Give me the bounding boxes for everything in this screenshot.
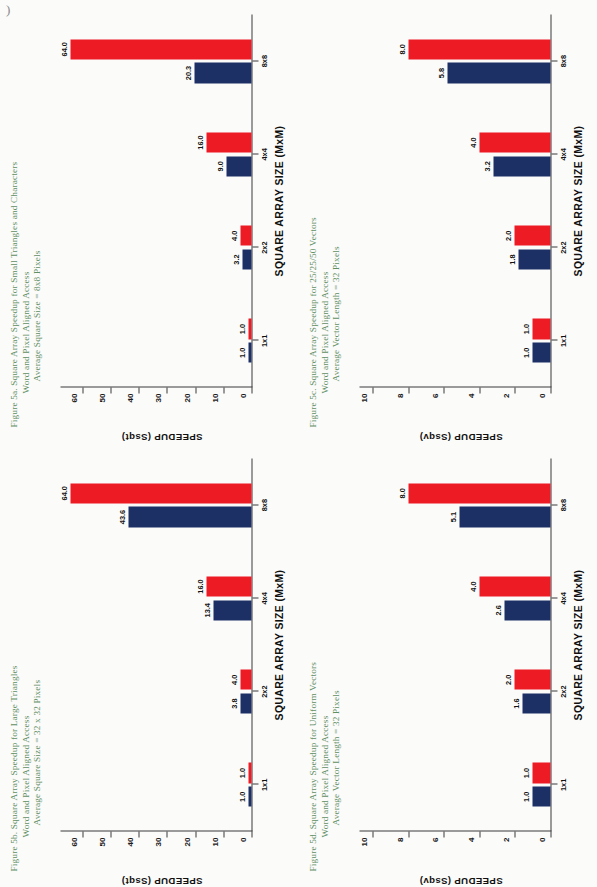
y-axis-tick (251, 831, 252, 837)
bar-value-label: 1.8 (507, 254, 516, 264)
bar-value-label: 13.4 (202, 603, 211, 617)
figure-panel-5c: Figure 5c. Square Array Speedup for 25/2… (299, 0, 597, 443)
bar-pixel-aligned (70, 39, 251, 59)
y-axis-tick-label: 4 (466, 837, 475, 861)
y-axis-tick (408, 831, 409, 837)
x-axis-group-label: 4x4 (558, 148, 567, 160)
x-axis-group-label: 2x2 (259, 685, 268, 697)
x-axis-tick (252, 246, 258, 247)
y-axis-tick (195, 831, 196, 837)
bar-pixel-aligned (70, 483, 251, 503)
bar-word-aligned (240, 693, 251, 713)
y-axis-tick (479, 831, 480, 837)
bar-pixel-aligned (240, 669, 251, 689)
y-axis (359, 386, 551, 387)
bar-word-aligned (447, 63, 550, 83)
x-axis-group-label: 4x4 (259, 148, 268, 160)
y-axis-tick (550, 831, 551, 837)
y-axis-tick-label: 4 (466, 393, 475, 417)
bar-value-label: 8.0 (397, 488, 406, 498)
x-axis-tick (252, 783, 258, 784)
bar-word-aligned (242, 249, 251, 269)
figure-caption-line-2: Word and Pixel Aligned Access (20, 127, 32, 427)
y-axis-tick-label: 0 (238, 837, 247, 861)
y-axis-title: SPEEDUP (Ssqv) (381, 876, 541, 887)
x-axis-title: SQUARE ARRAY SIZE (MxM) (572, 458, 583, 831)
y-axis-tick-label: 8 (395, 837, 404, 861)
bar-word-aligned (493, 156, 550, 176)
y-axis-tick (166, 831, 167, 837)
bar-word-aligned (248, 786, 251, 806)
bar-pixel-aligned (408, 39, 550, 59)
y-axis-tick-label: 2 (501, 837, 510, 861)
x-axis-group-label: 8x8 (558, 54, 567, 66)
y-axis-tick (223, 831, 224, 837)
x-axis-title: SQUARE ARRAY SIZE (MxM) (273, 458, 284, 831)
y-axis-tick-label: 10 (210, 393, 219, 417)
y-axis-tick (443, 387, 444, 393)
plot-area: 0246810SPEEDUP (Ssqv)SQUARE ARRAY SIZE (… (359, 458, 551, 831)
bar-pixel-aligned (206, 132, 251, 152)
x-axis-group-label: 2x2 (259, 241, 268, 253)
bar-value-label: 1.0 (521, 347, 530, 357)
bar-pixel-aligned (479, 576, 550, 596)
x-axis-tick (252, 690, 258, 691)
y-axis-tick-label: 2 (501, 393, 510, 417)
figure-caption-line-2: Word and Pixel Aligned Access (319, 571, 331, 871)
x-axis-title: SQUARE ARRAY SIZE (MxM) (273, 14, 284, 387)
x-axis-group-label: 1x1 (259, 334, 268, 346)
bar-value-label: 1.0 (521, 323, 530, 333)
figure-caption-line-3: Average Vector Length = 32 Pixels (330, 127, 342, 427)
y-axis-tick-label: 6 (430, 837, 439, 861)
figure-caption-line-3: Average Square Size = 32 x 32 Pixels (31, 571, 43, 871)
figure-caption: Figure 5d. Square Array Speedup for Unif… (307, 571, 342, 871)
chart-figure-5a: Figure 5a. Square Array Speedup for Smal… (0, 0, 298, 443)
plot-area: 0102030405060SPEEDUP (Ssqt)SQUARE ARRAY … (60, 458, 252, 831)
x-axis-title: SQUARE ARRAY SIZE (MxM) (572, 14, 583, 387)
x-axis-tick (551, 504, 557, 505)
figure-caption-line-1: Figure 5a. Square Array Speedup for Smal… (8, 161, 18, 427)
figure-caption-line-1: Figure 5d. Square Array Speedup for Unif… (307, 661, 317, 871)
x-axis-group-label: 4x4 (259, 592, 268, 604)
figure-caption: Figure 5c. Square Array Speedup for 25/2… (307, 127, 342, 427)
bar-pixel-aligned (514, 225, 550, 245)
x-axis-tick (551, 153, 557, 154)
bar-value-label: 4.0 (229, 674, 238, 684)
y-axis-tick-label: 60 (69, 393, 78, 417)
figure-caption-line-1: Figure 5c. Square Array Speedup for 25/2… (307, 217, 317, 427)
x-axis-tick (252, 597, 258, 598)
y-axis-tick-label: 20 (182, 837, 191, 861)
y-axis-tick (166, 387, 167, 393)
bar-value-label: 5.8 (436, 67, 445, 77)
bar-value-label: 16.0 (195, 135, 204, 149)
bar-value-label: 1.0 (237, 323, 246, 333)
x-axis-tick (252, 60, 258, 61)
y-axis-tick (138, 387, 139, 393)
y-axis-tick-label: 60 (69, 837, 78, 861)
y-axis-tick-label: 10 (210, 837, 219, 861)
figure-caption-line-2: Word and Pixel Aligned Access (319, 127, 331, 427)
chart-figure-5b: Figure 5b. Square Array Speedup for Larg… (0, 444, 298, 887)
y-axis-tick (372, 387, 373, 393)
x-axis-group-label: 2x2 (558, 685, 567, 697)
y-axis-tick (408, 387, 409, 393)
scanned-page: ) Figure 5a. Square Array Speedup for Sm… (0, 0, 597, 887)
bar-pixel-aligned (514, 669, 550, 689)
bar-pixel-aligned (408, 483, 550, 503)
bar-word-aligned (248, 342, 251, 362)
bar-value-label: 43.6 (117, 509, 126, 523)
y-axis-tick-label: 40 (125, 837, 134, 861)
figure-caption-line-3: Average Square Size = 8x8 Pixels (31, 127, 43, 427)
y-axis-tick-label: 10 (359, 393, 368, 417)
figure-caption-line-3: Average Vector Length = 32 Pixels (330, 571, 342, 871)
y-axis (359, 830, 551, 831)
y-axis-tick (443, 831, 444, 837)
x-axis-tick (551, 60, 557, 61)
y-axis-title: SPEEDUP (Ssqt) (82, 432, 242, 443)
x-axis-group-label: 2x2 (558, 241, 567, 253)
y-axis-tick-label: 8 (395, 393, 404, 417)
y-axis-tick (479, 387, 480, 393)
bar-value-label: 1.0 (237, 767, 246, 777)
bar-value-label: 4.0 (468, 137, 477, 147)
bar-value-label: 8.0 (397, 44, 406, 54)
